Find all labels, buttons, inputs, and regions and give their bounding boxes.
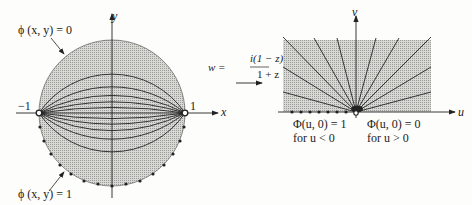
mapping-numerator: i(1 − z) [250,53,283,64]
half-plane [278,16,455,118]
label-right-condition: Φ(u, 0) = 0 [367,118,421,130]
mapping-denominator: 1 + z [257,69,279,80]
point-minus-one [36,110,42,116]
origin-point [354,111,358,115]
pointer-top [51,38,64,54]
label-phi-one: ϕ (x, y) = 1 [18,188,72,200]
label-one: 1 [190,100,196,112]
label-v-axis: v [352,6,357,18]
label-minus-one: −1 [18,100,31,112]
label-phi-zero: ϕ (x, y) = 0 [18,24,72,36]
label-left-range: for u < 0 [293,132,335,144]
label-y-axis: y [112,10,117,22]
point-one [182,110,188,116]
label-left-condition: Φ(u, 0) = 1 [293,118,347,130]
label-x-axis: x [221,106,226,118]
mapping-lhs: w = [208,62,226,73]
unit-disk [16,14,218,198]
label-u-axis: u [458,106,464,118]
label-right-range: for u > 0 [367,132,409,144]
